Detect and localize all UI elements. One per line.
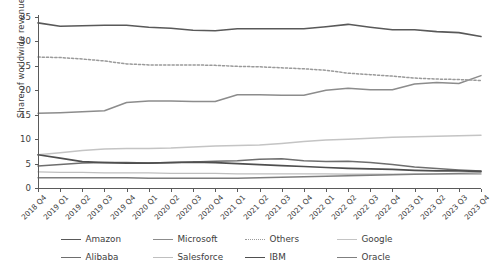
- legend-item-alibaba[interactable]: Alibaba: [61, 252, 153, 262]
- y-axis-tick-label: 15: [20, 110, 31, 120]
- y-axis-tick-label: 0: [26, 183, 31, 193]
- legend-label: Google: [362, 234, 393, 244]
- legend-label: Oracle: [362, 252, 391, 262]
- legend-line-swatch: [245, 257, 265, 258]
- legend-row: AmazonMicrosoftOthersGoogle: [0, 234, 489, 244]
- legend-item-google[interactable]: Google: [337, 234, 429, 244]
- series-line: [38, 57, 481, 80]
- legend-line-swatch: [61, 257, 81, 258]
- legend-item-oracle[interactable]: Oracle: [337, 252, 429, 262]
- legend-row: AlibabaSalesforceIBMOracle: [0, 252, 489, 262]
- legend-item-salesforce[interactable]: Salesforce: [153, 252, 245, 262]
- legend-label: Salesforce: [178, 252, 224, 262]
- legend-label: Others: [270, 234, 300, 244]
- chart-legend: AmazonMicrosoftOthersGoogleAlibabaSalesf…: [0, 234, 489, 273]
- series-line: [38, 155, 481, 172]
- series-line: [38, 23, 481, 37]
- plot-area: [38, 14, 481, 191]
- y-axis-tick-label: 25: [20, 61, 31, 71]
- y-axis-tick-label: 35: [20, 12, 31, 22]
- legend-line-swatch: [153, 239, 173, 240]
- legend-item-microsoft[interactable]: Microsoft: [153, 234, 245, 244]
- legend-item-amazon[interactable]: Amazon: [61, 234, 153, 244]
- legend-label: IBM: [270, 252, 286, 262]
- legend-line-swatch: [337, 239, 357, 240]
- y-axis-tick-label: 10: [20, 134, 31, 144]
- y-axis-tick-label: 20: [20, 85, 31, 95]
- y-axis-tick-label: 30: [20, 36, 31, 46]
- legend-line-swatch: [245, 239, 265, 240]
- legend-label: Alibaba: [86, 252, 119, 262]
- series-lines: [38, 14, 481, 191]
- legend-item-others[interactable]: Others: [245, 234, 337, 244]
- y-axis-tick-label: 5: [26, 159, 31, 169]
- series-line: [38, 76, 481, 114]
- legend-item-ibm[interactable]: IBM: [245, 252, 337, 262]
- legend-line-swatch: [153, 257, 173, 258]
- series-line: [38, 135, 481, 155]
- legend-label: Amazon: [86, 234, 122, 244]
- legend-line-swatch: [61, 239, 81, 240]
- legend-line-swatch: [337, 257, 357, 258]
- legend-label: Microsoft: [178, 234, 218, 244]
